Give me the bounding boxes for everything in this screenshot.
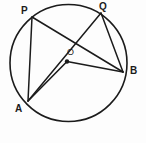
geometry-canvas — [0, 0, 146, 143]
segment-qa — [28, 13, 101, 101]
segment-qb — [101, 13, 123, 72]
vertex-label-p: P — [21, 6, 28, 16]
vertex-label-q: Q — [99, 2, 107, 12]
segment-pa — [28, 17, 32, 101]
center-point-dot — [65, 59, 69, 63]
geometry-figure: P Q B A O — [0, 0, 146, 143]
segment-oa — [28, 62, 67, 102]
center-label-o: O — [67, 48, 74, 57]
vertex-label-b: B — [130, 66, 137, 76]
vertex-label-a: A — [15, 104, 22, 114]
